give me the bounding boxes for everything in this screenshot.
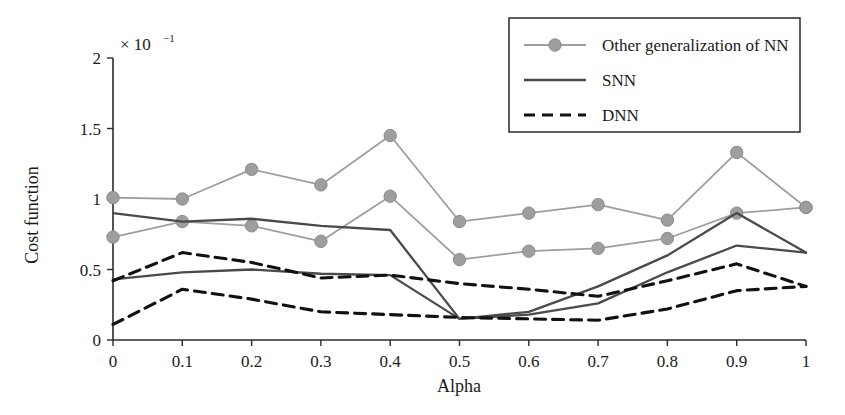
y-tick-label: 2 (93, 49, 102, 68)
series-marker (245, 163, 257, 175)
legend-swatch-marker (549, 39, 561, 51)
series-marker (453, 253, 465, 265)
chart-figure: 00.511.52 00.10.20.30.40.50.60.70.80.91 … (0, 0, 845, 415)
legend-entry-label: SNN (602, 71, 636, 90)
series-marker (453, 215, 465, 227)
x-tick-label: 0.3 (310, 352, 331, 371)
legend-entry-label: Other generalization of NN (602, 36, 788, 55)
series-marker (384, 129, 396, 141)
series-marker (384, 190, 396, 202)
series-marker (523, 207, 535, 219)
y-tick-label: 0 (93, 331, 102, 350)
series-marker (592, 242, 604, 254)
series-marker (245, 220, 257, 232)
series-marker (523, 245, 535, 257)
series-marker (661, 214, 673, 226)
y-tick-label: 0.5 (80, 261, 101, 280)
x-tick-label: 0.7 (587, 352, 609, 371)
series-marker (731, 146, 743, 158)
series-marker (176, 193, 188, 205)
y-axis-exponent-power: −1 (163, 32, 175, 44)
series-marker (107, 231, 119, 243)
y-axis-exponent-base: × 10 (120, 35, 151, 54)
series-marker (661, 232, 673, 244)
x-tick-label: 0.5 (449, 352, 470, 371)
x-tick-label: 1 (802, 352, 811, 371)
series-marker (315, 179, 327, 191)
x-axis-title: Alpha (437, 376, 481, 396)
x-tick-label: 0.4 (380, 352, 402, 371)
series-marker (800, 201, 812, 213)
x-tick-label: 0.2 (241, 352, 262, 371)
x-tick-label: 0.9 (726, 352, 747, 371)
series-marker (107, 191, 119, 203)
y-tick-label: 1.5 (80, 120, 101, 139)
chart-legend: Other generalization of NNSNNDNN (509, 18, 800, 132)
legend-entry-label: DNN (602, 106, 639, 125)
y-axis-title: Cost function (22, 166, 42, 264)
y-tick-label: 1 (93, 190, 102, 209)
line-chart: 00.511.52 00.10.20.30.40.50.60.70.80.91 … (0, 0, 845, 415)
x-tick-label: 0.8 (657, 352, 678, 371)
x-tick-label: 0.1 (172, 352, 193, 371)
x-tick-label: 0 (109, 352, 118, 371)
series-marker (592, 198, 604, 210)
series-marker (315, 235, 327, 247)
x-tick-label: 0.6 (518, 352, 539, 371)
